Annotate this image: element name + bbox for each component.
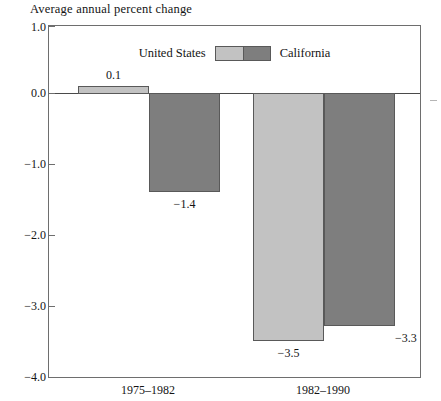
y-tick-label-0-0: 0.0 [2,87,46,99]
chart-title: Average annual percent change [30,2,192,17]
legend-label-california: California [280,46,331,61]
y-tick-label-neg-4-0: −4.0 [2,371,46,383]
bar-united-states-1975-1982 [78,86,149,94]
x-axis-label-1975-1982: 1975–1982 [77,384,219,396]
y-axis: 1.0 0.0 −1.0 −2.0 −3.0 −4.0 [0,0,46,401]
bar-united-states-1982-1990 [253,93,324,341]
chart-legend: United States California [48,44,421,62]
bar-value-united-states-1982-1990: −3.5 [253,347,324,359]
y-tick-label-neg-2-0: −2.0 [2,229,46,241]
plot-area: 0.1 −1.4 −3.5 −3.3 [48,25,421,378]
legend-label-united-states: United States [139,46,206,61]
y-tick-mark-2 [49,93,55,94]
bar-chart: Average annual percent change 0.1 −1.4 −… [0,0,441,401]
y-tick-mark-3 [49,164,55,165]
bar-value-united-states-1975-1982: 0.1 [78,69,149,81]
y-tick-mark-1 [49,26,55,27]
y-tick-label-1-0: 1.0 [2,21,46,33]
y-tick-mark-4 [49,235,55,236]
scan-artifact [430,100,437,101]
y-tick-mark-5 [49,306,55,307]
legend-swatch-united-states [215,46,243,61]
legend-swatch-california [243,46,271,61]
x-axis-label-1982-1990: 1982–1990 [252,384,394,396]
bar-california-1982-1990 [324,93,395,326]
bar-value-california-1975-1982: −1.4 [149,198,220,210]
legend-swatch-group [215,46,271,61]
bar-value-california-1982-1990: −3.3 [395,332,441,344]
y-tick-label-neg-3-0: −3.0 [2,300,46,312]
bar-california-1975-1982 [149,93,220,192]
y-tick-mark-6 [49,377,55,378]
y-tick-label-neg-1-0: −1.0 [2,158,46,170]
